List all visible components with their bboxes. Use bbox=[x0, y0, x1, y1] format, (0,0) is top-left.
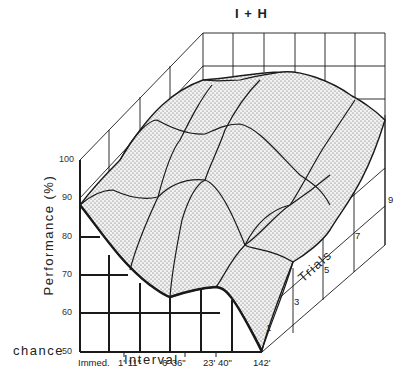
y-tick-90: 90 bbox=[62, 192, 72, 202]
z-tick-1: 1 bbox=[266, 322, 271, 333]
z-tick-7: 7 bbox=[355, 230, 360, 241]
z-tick-3: 3 bbox=[294, 296, 299, 307]
surface-chart bbox=[0, 0, 400, 370]
chart-title: I + H bbox=[235, 6, 268, 21]
x-tick-immed: Immed. bbox=[78, 357, 110, 368]
x-tick-142m: 142' bbox=[253, 357, 271, 368]
y-tick-70: 70 bbox=[62, 269, 72, 279]
y-tick-80: 80 bbox=[62, 231, 72, 241]
chance-label: chance bbox=[13, 343, 64, 358]
x-axis-title: Interval bbox=[124, 352, 179, 367]
x-tick-23m40s: 23' 40" bbox=[203, 357, 232, 368]
y-tick-100: 100 bbox=[59, 154, 74, 164]
y-axis-title: Performance (%) bbox=[41, 176, 56, 296]
y-tick-60: 60 bbox=[62, 307, 72, 317]
z-tick-9: 9 bbox=[388, 194, 393, 205]
